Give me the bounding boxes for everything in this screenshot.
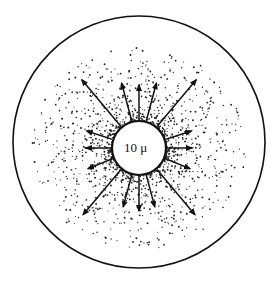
arrow-icon: [123, 175, 132, 207]
arrow-icon: [157, 80, 196, 127]
arrow-icon: [82, 80, 121, 127]
size-label: 10 μ: [124, 140, 147, 156]
arrow-icon: [122, 83, 132, 121]
arrow-icon: [146, 175, 155, 207]
